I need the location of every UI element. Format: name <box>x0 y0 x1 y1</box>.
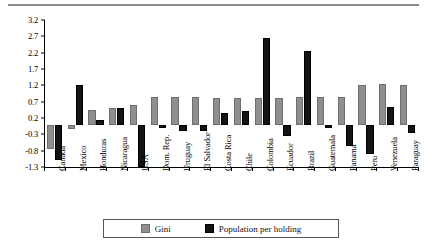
legend-swatch-icon <box>205 224 214 233</box>
y-axis-tick-label: 1.7 <box>0 64 42 74</box>
bar-population-per-holding-costa-rica <box>221 113 228 124</box>
bar-gini-colombia <box>255 98 262 124</box>
bar-gini-paraguay <box>400 85 407 124</box>
x-axis-tick-mark <box>418 167 419 171</box>
bar-population-per-holding-chile <box>242 111 249 124</box>
bar-population-per-holding-peru <box>366 125 373 154</box>
x-axis-tick-mark <box>189 167 190 171</box>
x-axis-tick-mark <box>106 167 107 171</box>
x-axis-label-costa-rica: Costa Rica <box>224 135 233 171</box>
bar-population-per-holding-venezuela <box>387 107 394 125</box>
x-axis-tick-mark <box>86 167 87 171</box>
bar-population-per-holding-ecuador <box>283 125 290 136</box>
x-axis-tick-mark <box>314 167 315 171</box>
x-axis-tick-mark <box>231 167 232 171</box>
bar-population-per-holding-panama <box>346 125 353 146</box>
x-axis-tick-mark <box>148 167 149 171</box>
x-axis-tick-mark <box>356 167 357 171</box>
y-axis-tick-label: 0.2 <box>0 113 42 123</box>
x-axis-tick-mark <box>376 167 377 171</box>
legend-label: Population per holding <box>219 224 302 234</box>
bar-gini-mexico <box>68 125 75 130</box>
x-axis-label-dom-rep-: Dom. Rep. <box>162 135 171 171</box>
x-axis-tick-mark <box>293 167 294 171</box>
bar-population-per-holding-mexico <box>76 85 83 124</box>
y-axis-tick-label: -0.3 <box>0 129 42 139</box>
legend-item-gini[interactable]: Gini <box>141 224 171 234</box>
y-axis-tick-label: 3.2 <box>0 15 42 25</box>
bar-gini-guatemala <box>317 97 324 125</box>
bar-gini-venezuela <box>379 84 386 125</box>
bar-gini-panama <box>338 97 345 125</box>
y-axis-tick-label: 2.7 <box>0 31 42 41</box>
x-axis-tick-mark <box>210 167 211 171</box>
bar-gini-usa <box>130 105 137 125</box>
x-axis-tick-mark <box>397 167 398 171</box>
bar-gini-el-salvador <box>192 97 199 125</box>
bar-population-per-holding-brazil <box>304 51 311 125</box>
y-axis-tick-label: 1.2 <box>0 80 42 90</box>
bar-gini-canada <box>47 125 54 150</box>
legend-swatch-icon <box>141 224 150 233</box>
y-axis-tick-label: -0.8 <box>0 146 42 156</box>
bar-population-per-holding-honduras <box>96 120 103 125</box>
x-axis-tick-mark <box>335 167 336 171</box>
y-axis-tick-label: -1.3 <box>0 162 42 172</box>
bar-gini-brazil <box>296 97 303 125</box>
x-axis-tick-mark <box>44 167 45 171</box>
x-axis-label-el-salvador: El Salvador <box>203 132 212 171</box>
bar-gini-uruguay <box>171 97 178 125</box>
legend-item-population-per-holding[interactable]: Population per holding <box>205 224 302 234</box>
x-axis-label-nicaragua: Nicaragua <box>120 137 129 171</box>
bar-chart: -1.3-0.8-0.30.20.71.21.72.22.73.2CanadaM… <box>0 0 427 247</box>
bar-gini-peru <box>358 85 365 124</box>
x-axis-tick-mark <box>252 167 253 171</box>
y-axis-tick-label: 2.2 <box>0 48 42 58</box>
bar-gini-ecuador <box>275 98 282 124</box>
bar-gini-chile <box>234 98 241 124</box>
bar-gini-costa-rica <box>213 98 220 124</box>
bar-gini-dom-rep- <box>151 97 158 125</box>
legend-label: Gini <box>155 224 171 234</box>
bar-population-per-holding-guatemala <box>325 125 332 128</box>
x-axis-label-venezuela: Venezuela <box>390 137 399 171</box>
x-axis-tick-mark <box>169 167 170 171</box>
bar-population-per-holding-dom-rep- <box>159 125 166 128</box>
bar-population-per-holding-paraguay <box>408 125 415 133</box>
bar-population-per-holding-colombia <box>263 38 270 125</box>
x-axis-tick-mark <box>127 167 128 171</box>
x-axis-tick-mark <box>273 167 274 171</box>
y-axis-tick-label: 0.7 <box>0 97 42 107</box>
bar-gini-honduras <box>88 110 95 125</box>
bar-population-per-holding-el-salvador <box>200 125 207 132</box>
x-axis-label-guatemala: Guatemala <box>328 135 337 171</box>
bar-gini-nicaragua <box>109 108 116 124</box>
x-axis-tick-mark <box>65 167 66 171</box>
bar-population-per-holding-uruguay <box>179 125 186 132</box>
bar-population-per-holding-nicaragua <box>117 108 124 125</box>
chart-legend: GiniPopulation per holding <box>103 219 339 238</box>
